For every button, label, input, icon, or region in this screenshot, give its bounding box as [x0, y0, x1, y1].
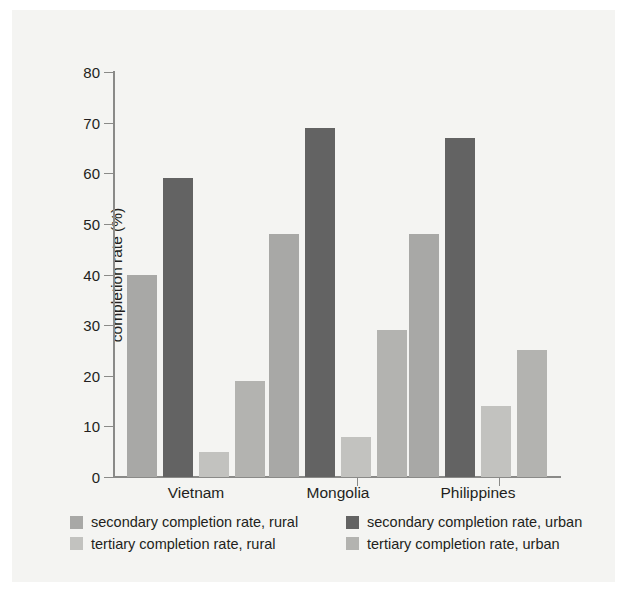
bar — [445, 138, 475, 477]
y-axis-title-container: completion rate (%) — [26, 180, 56, 370]
x-axis-label-vietnam: Vietnam — [116, 484, 276, 502]
legend-item-secondary-rural: secondary completion rate, rural — [70, 515, 346, 530]
bar — [305, 128, 335, 477]
legend-label-tertiary-urban: tertiary completion rate, urban — [367, 537, 560, 552]
y-axis-tick-label-20: 20 — [83, 367, 100, 384]
bar — [269, 234, 299, 477]
legend-swatch-tertiary-urban — [346, 537, 359, 550]
x-axis-separator-tick-0 — [357, 478, 358, 486]
y-axis-tick-80 — [104, 72, 113, 73]
bar — [517, 350, 547, 477]
bar — [235, 381, 265, 477]
y-axis-tick-label-70: 70 — [83, 114, 100, 131]
y-axis-tick-label-30: 30 — [83, 317, 100, 334]
legend-row-1: secondary completion rate, rural seconda… — [70, 515, 615, 530]
legend-swatch-tertiary-rural — [70, 537, 83, 550]
y-axis-tick-40 — [104, 275, 113, 276]
chart-screenshot: completion rate (%) 01020304050607080 Vi… — [0, 0, 627, 592]
y-axis-tick-20 — [104, 376, 113, 377]
legend-swatch-secondary-rural — [70, 516, 83, 529]
x-axis-separator-tick-1 — [499, 478, 500, 486]
y-axis-tick-10 — [104, 426, 113, 427]
legend-label-secondary-urban: secondary completion rate, urban — [367, 515, 582, 530]
y-axis-tick-label-50: 50 — [83, 215, 100, 232]
y-axis-tick-50 — [104, 224, 113, 225]
y-axis-tick-label-10: 10 — [83, 418, 100, 435]
legend-item-tertiary-rural: tertiary completion rate, rural — [70, 537, 346, 552]
bar-group-mongolia — [269, 72, 409, 477]
plot-area — [113, 72, 560, 477]
bar — [163, 178, 193, 477]
y-axis-tick-30 — [104, 325, 113, 326]
x-axis-label-philippines: Philippines — [398, 484, 558, 502]
legend-item-tertiary-urban: tertiary completion rate, urban — [346, 537, 560, 552]
legend-row-2: tertiary completion rate, rural tertiary… — [70, 537, 615, 552]
bar-group-vietnam — [127, 72, 267, 477]
bar — [409, 234, 439, 477]
bar — [341, 437, 371, 478]
legend-swatch-secondary-urban — [346, 516, 359, 529]
y-axis-tick-60 — [104, 173, 113, 174]
bar — [199, 452, 229, 477]
chart-legend: secondary completion rate, rural seconda… — [70, 515, 615, 558]
legend-item-secondary-urban: secondary completion rate, urban — [346, 515, 582, 530]
legend-label-secondary-rural: secondary completion rate, rural — [91, 515, 298, 530]
bar-group-philippines — [409, 72, 549, 477]
y-axis-tick-0 — [104, 477, 113, 478]
bar — [127, 275, 157, 478]
y-axis-tick-label-0: 0 — [92, 469, 100, 486]
y-axis-tick-70 — [104, 123, 113, 124]
y-axis-tick-label-60: 60 — [83, 165, 100, 182]
y-axis-tick-label-40: 40 — [83, 266, 100, 283]
y-axis-tick-label-80: 80 — [83, 64, 100, 81]
bar — [377, 330, 407, 477]
chart-panel: completion rate (%) 01020304050607080 Vi… — [12, 10, 615, 582]
legend-label-tertiary-rural: tertiary completion rate, rural — [91, 537, 276, 552]
bar — [481, 406, 511, 477]
x-axis-label-mongolia: Mongolia — [258, 484, 418, 502]
